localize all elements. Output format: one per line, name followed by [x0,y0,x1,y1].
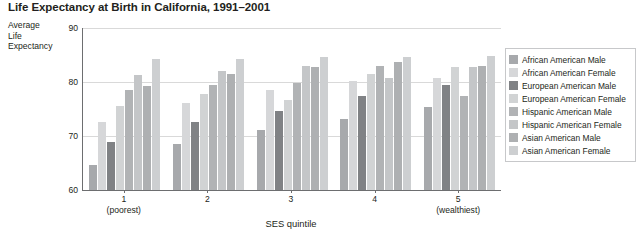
bar[interactable] [367,74,375,190]
chart-page: Life Expectancy at Birth in California, … [0,0,642,242]
y-tick-label-90: 90 [56,23,78,33]
bar[interactable] [257,130,265,190]
legend-item[interactable]: Hispanic American Female [509,118,632,131]
x-tick-mark [207,190,208,193]
bar[interactable] [275,111,283,190]
x-tick-number: 2 [162,194,252,205]
x-tick-mark [124,190,125,193]
bar[interactable] [376,66,384,190]
legend-item[interactable]: Hispanic American Male [509,105,632,118]
legend-swatch-icon [509,133,518,142]
plot-area [82,28,501,191]
bar[interactable] [107,142,115,190]
bar[interactable] [311,67,319,190]
x-tick-mark [458,190,459,193]
bar[interactable] [89,165,97,190]
bar[interactable] [182,103,190,190]
bar[interactable] [266,90,274,190]
y-tick-label-80: 80 [56,77,78,87]
bar[interactable] [320,57,328,190]
y-tick-label-60: 60 [56,185,78,195]
bar[interactable] [394,62,402,190]
bar[interactable] [293,83,301,190]
legend-swatch-icon [509,146,518,155]
bar[interactable] [424,107,432,190]
y-axis-caption-line-1: Average [8,20,40,30]
x-tick-label-4: 4 [330,194,420,205]
x-tick-number: 5 [413,194,503,205]
bar[interactable] [191,122,199,190]
y-axis-caption: Average Life Expectancy [8,20,58,52]
bar[interactable] [98,122,106,190]
bar[interactable] [200,94,208,190]
bar[interactable] [433,78,441,190]
legend-label: Hispanic American Male [522,107,612,117]
legend-label: European American Male [522,81,616,91]
bar[interactable] [403,57,411,190]
bar[interactable] [469,67,477,190]
y-axis-caption-line-2: Life [8,31,22,41]
legend-label: Asian American Female [522,146,610,156]
bar[interactable] [460,96,468,190]
y-axis-caption-line-3: Expectancy [8,41,52,51]
bar[interactable] [451,67,459,190]
page-title: Life Expectancy at Birth in California, … [8,1,270,13]
bar[interactable] [358,96,366,191]
bar[interactable] [302,66,310,190]
x-tick-label-2: 2 [162,194,252,205]
bar[interactable] [143,86,151,190]
legend-swatch-icon [509,120,518,129]
x-tick-sublabel: (poorest) [79,205,169,216]
x-tick-number: 3 [246,194,336,205]
bar-group-quintile-3 [257,28,328,190]
bar[interactable] [218,71,226,190]
legend-swatch-icon [509,68,518,77]
bar-group-quintile-1 [89,28,160,190]
bar[interactable] [209,85,217,190]
legend-label: African American Female [522,68,616,78]
bar[interactable] [227,74,235,190]
chart-legend: African American MaleAfrican American Fe… [505,48,636,162]
legend-swatch-icon [509,81,518,90]
legend-label: Asian American Male [522,133,601,143]
x-tick-mark [291,190,292,193]
legend-item[interactable]: African American Female [509,66,632,79]
legend-item[interactable]: European American Male [509,79,632,92]
bar[interactable] [349,81,357,190]
bar-group-quintile-4 [340,28,411,190]
bar[interactable] [442,85,450,190]
bar[interactable] [284,100,292,190]
legend-swatch-icon [509,107,518,116]
bar[interactable] [173,144,181,190]
x-axis-title: SES quintile [82,218,500,229]
legend-label: African American Male [522,55,606,65]
legend-item[interactable]: Asian American Male [509,131,632,144]
bar-group-quintile-5 [424,28,495,190]
x-tick-mark [375,190,376,193]
x-tick-label-1: 1(poorest) [79,194,169,215]
legend-item[interactable]: African American Male [509,53,632,66]
legend-label: Hispanic American Female [522,120,622,130]
bar[interactable] [236,59,244,190]
bar[interactable] [487,56,495,190]
bar[interactable] [152,59,160,190]
x-tick-label-3: 3 [246,194,336,205]
bar[interactable] [385,78,393,190]
y-tick-label-70: 70 [56,131,78,141]
bar-group-quintile-2 [173,28,244,190]
legend-item[interactable]: European American Female [509,92,632,105]
bar[interactable] [116,106,124,190]
x-tick-number: 1 [79,194,169,205]
bar[interactable] [134,75,142,190]
bar[interactable] [125,90,133,190]
legend-label: European American Female [522,94,626,104]
bar[interactable] [478,66,486,190]
x-tick-label-5: 5(wealthiest) [413,194,503,215]
bar[interactable] [340,119,348,190]
legend-item[interactable]: Asian American Female [509,144,632,157]
x-tick-sublabel: (wealthiest) [413,205,503,216]
legend-swatch-icon [509,94,518,103]
x-tick-number: 4 [330,194,420,205]
legend-swatch-icon [509,55,518,64]
